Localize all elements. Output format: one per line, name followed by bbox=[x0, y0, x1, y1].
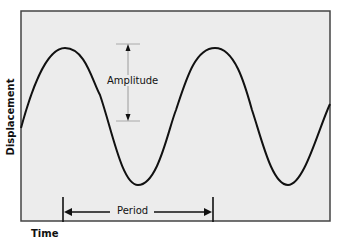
period-label: Period bbox=[116, 205, 149, 216]
x-axis-label: Time bbox=[31, 228, 58, 239]
amplitude-label: Amplitude bbox=[106, 75, 159, 86]
plot-area bbox=[21, 11, 330, 221]
wave-diagram bbox=[0, 0, 338, 246]
y-axis-label: Displacement bbox=[5, 79, 16, 156]
